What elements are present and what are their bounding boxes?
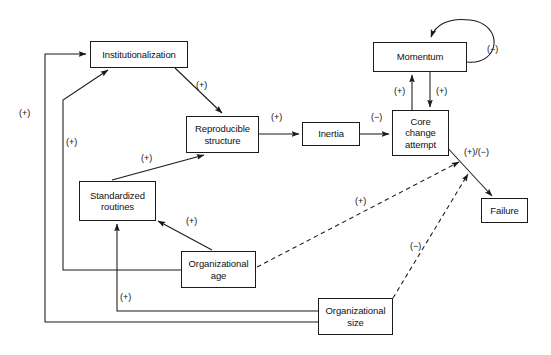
node-label: Core change attempt: [395, 116, 446, 151]
edge-label-age-to-routines: (+): [186, 216, 197, 226]
edge-routines-to-repro: [112, 155, 204, 180]
node-standardized-routines[interactable]: Standardized routines: [79, 181, 156, 221]
node-label: Institutionalization: [102, 49, 176, 61]
edge-label-momentum-self-loop: (−): [487, 44, 498, 54]
node-label: Organizational age: [184, 258, 253, 281]
diagram-connectors: [0, 0, 551, 355]
edge-label-age-to-inst: (+): [66, 137, 77, 147]
edge-label-core-to-failure: (+)/(−): [464, 147, 489, 157]
node-label: Organizational size: [321, 305, 390, 328]
edge-label-repro-to-inertia: (+): [271, 112, 282, 122]
edge-age-moderates-failure: [257, 162, 459, 267]
edge-label-size-to-routines: (+): [120, 292, 131, 302]
node-label: Reproducible structure: [189, 123, 256, 146]
node-core-change-attempt[interactable]: Core change attempt: [392, 110, 449, 156]
node-label: Inertia: [318, 128, 344, 140]
node-momentum[interactable]: Momentum: [373, 42, 467, 72]
node-organizational-size[interactable]: Organizational size: [318, 298, 393, 335]
edge-label-age-moderates-failure: (+): [355, 196, 366, 206]
node-organizational-age[interactable]: Organizational age: [181, 251, 256, 288]
node-failure[interactable]: Failure: [481, 198, 528, 223]
node-institutionalization[interactable]: Institutionalization: [90, 41, 188, 68]
edge-age-to-routines: [158, 221, 212, 250]
node-reproducible-structure[interactable]: Reproducible structure: [186, 116, 259, 153]
edge-label-inst-to-repro: (+): [196, 80, 207, 90]
node-label: Standardized routines: [82, 190, 153, 213]
edge-label-size-moderates-failure: (−): [410, 241, 421, 251]
edge-label-inertia-to-core: (−): [371, 112, 382, 122]
node-inertia[interactable]: Inertia: [302, 122, 360, 146]
node-label: Momentum: [397, 51, 444, 63]
edge-age-to-inst: [63, 70, 181, 270]
edge-label-size-to-inst: (+): [19, 108, 30, 118]
edge-size-moderates-failure: [393, 174, 468, 298]
edge-label-routines-to-repro: (+): [141, 153, 152, 163]
edge-label-momentum-to-core: (+): [436, 86, 447, 96]
diagram-canvas: Institutionalization Reproducible struct…: [0, 0, 551, 355]
node-label: Failure: [490, 205, 518, 217]
edge-label-core-to-momentum: (+): [394, 86, 405, 96]
edge-inst-to-repro: [175, 68, 222, 113]
